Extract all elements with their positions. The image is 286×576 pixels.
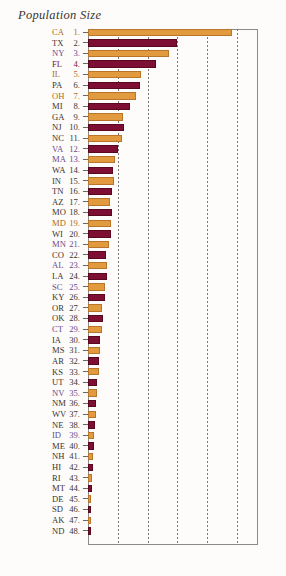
bar-row[interactable]: 17.AZ — [0, 197, 286, 208]
bar[interactable] — [88, 135, 122, 142]
bar-row[interactable]: 46.SD — [0, 504, 286, 515]
bar-row[interactable]: 36.NM — [0, 398, 286, 409]
bar[interactable] — [88, 198, 110, 205]
bar-row[interactable]: 15.IN — [0, 176, 286, 187]
bar-row[interactable]: 22.CO — [0, 250, 286, 261]
bar[interactable] — [88, 336, 100, 343]
bar[interactable] — [88, 273, 107, 280]
bar-row[interactable]: 30.IA — [0, 335, 286, 346]
bar[interactable] — [88, 156, 115, 163]
bar-row[interactable]: 20.WI — [0, 229, 286, 240]
bar[interactable] — [88, 177, 114, 184]
bar[interactable] — [88, 315, 103, 322]
bar-row[interactable]: 38.NE — [0, 420, 286, 431]
bar[interactable] — [88, 113, 123, 120]
bar[interactable] — [88, 241, 109, 248]
bar[interactable] — [88, 326, 102, 333]
bar[interactable] — [88, 474, 92, 481]
bar[interactable] — [88, 432, 94, 439]
bar-row[interactable]: 4.FL — [0, 59, 286, 70]
bar[interactable] — [88, 209, 112, 216]
bar-row[interactable]: 48.ND — [0, 526, 286, 537]
bar[interactable] — [88, 400, 96, 407]
bar[interactable] — [88, 220, 111, 227]
bar-row[interactable]: 31.MS — [0, 345, 286, 356]
bar-row[interactable]: 27.OR — [0, 303, 286, 314]
bar[interactable] — [88, 442, 94, 449]
bar-row[interactable]: 10.NJ — [0, 122, 286, 133]
bar-row[interactable]: 12.VA — [0, 144, 286, 155]
row-label: ME — [52, 441, 80, 452]
bar[interactable] — [88, 411, 96, 418]
bar-row[interactable]: 34.UT — [0, 377, 286, 388]
bar[interactable] — [88, 29, 232, 36]
bar-row[interactable]: 26.KY — [0, 292, 286, 303]
bar-row[interactable]: 42.HI — [0, 462, 286, 473]
bar-row[interactable]: 8.MI — [0, 101, 286, 112]
bar[interactable] — [88, 368, 99, 375]
bar[interactable] — [88, 379, 97, 386]
bar[interactable] — [88, 251, 106, 258]
bar-row[interactable]: 11.NC — [0, 133, 286, 144]
bar-row[interactable]: 9.GA — [0, 112, 286, 123]
bar-row[interactable]: 33.KS — [0, 367, 286, 378]
bar[interactable] — [88, 82, 140, 89]
bar-row[interactable]: 24.LA — [0, 271, 286, 282]
bar-row[interactable]: 1.CA — [0, 27, 286, 38]
row-label: AZ — [52, 197, 80, 208]
bar[interactable] — [88, 517, 91, 524]
bar[interactable] — [88, 506, 91, 513]
bar-row[interactable]: 16.TN — [0, 186, 286, 197]
bar-row[interactable]: 47.AK — [0, 515, 286, 526]
bar[interactable] — [88, 294, 105, 301]
bar-row[interactable]: 19.MD — [0, 218, 286, 229]
bar[interactable] — [88, 103, 130, 110]
bar-row[interactable]: 21.MN — [0, 239, 286, 250]
bar[interactable] — [88, 124, 124, 131]
bar-row[interactable]: 40.ME — [0, 441, 286, 452]
bar[interactable] — [88, 262, 107, 269]
bar[interactable] — [88, 347, 100, 354]
bar[interactable] — [88, 421, 95, 428]
row-label: AK — [52, 515, 80, 526]
bar-row[interactable]: 14.WA — [0, 165, 286, 176]
bar-row[interactable]: 5.IL — [0, 69, 286, 80]
bar-row[interactable]: 3.NY — [0, 48, 286, 59]
bar-row[interactable]: 13.MA — [0, 154, 286, 165]
bar-row[interactable]: 45.DE — [0, 494, 286, 505]
bar[interactable] — [88, 60, 156, 67]
bar[interactable] — [88, 230, 111, 237]
bar[interactable] — [88, 527, 91, 534]
bar-row[interactable]: 6.PA — [0, 80, 286, 91]
bar[interactable] — [88, 167, 113, 174]
bar[interactable] — [88, 71, 141, 78]
bar[interactable] — [88, 50, 169, 57]
bar[interactable] — [88, 92, 136, 99]
bar-row[interactable]: 41.NH — [0, 451, 286, 462]
bar[interactable] — [88, 357, 99, 364]
bar[interactable] — [88, 495, 91, 502]
bar-row[interactable]: 44.MT — [0, 483, 286, 494]
bar-row[interactable]: 7.OH — [0, 91, 286, 102]
bar-row[interactable]: 29.CT — [0, 324, 286, 335]
bar-row[interactable]: 39.ID — [0, 430, 286, 441]
bar[interactable] — [88, 389, 97, 396]
bar-row[interactable]: 37.WV — [0, 409, 286, 420]
bar[interactable] — [88, 39, 177, 46]
bar[interactable] — [88, 304, 102, 311]
bar[interactable] — [88, 145, 118, 152]
bar-row[interactable]: 23.AL — [0, 260, 286, 271]
bar[interactable] — [88, 453, 93, 460]
bar-row[interactable]: 25.SC — [0, 282, 286, 293]
bar[interactable] — [88, 464, 93, 471]
row-label: TX — [52, 38, 80, 49]
bar-row[interactable]: 35.NV — [0, 388, 286, 399]
bar-row[interactable]: 32.AR — [0, 356, 286, 367]
bar-row[interactable]: 43.RI — [0, 473, 286, 484]
bar[interactable] — [88, 188, 112, 195]
bar-row[interactable]: 28.OK — [0, 313, 286, 324]
bar[interactable] — [88, 485, 92, 492]
bar-row[interactable]: 2.TX — [0, 38, 286, 49]
bar-row[interactable]: 18.MO — [0, 207, 286, 218]
bar[interactable] — [88, 283, 105, 290]
